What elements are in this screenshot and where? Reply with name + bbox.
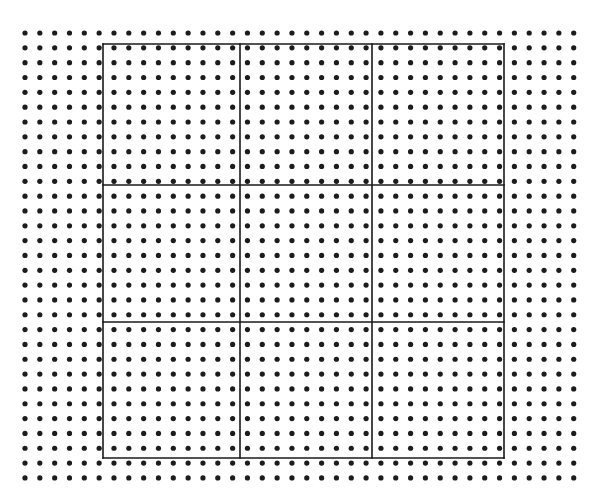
lattice-dot <box>82 60 87 65</box>
lattice-dot <box>275 475 280 480</box>
lattice-dot <box>37 401 42 406</box>
lattice-dot <box>200 105 205 110</box>
lattice-dot <box>215 357 220 362</box>
lattice-dot <box>141 401 146 406</box>
lattice-dot <box>363 312 368 317</box>
lattice-dot <box>260 357 265 362</box>
lattice-dot <box>571 386 576 391</box>
lattice-dot <box>527 208 532 213</box>
lattice-dot <box>541 194 546 199</box>
lattice-dot <box>289 431 294 436</box>
lattice-dot <box>111 75 116 80</box>
lattice-dot <box>171 268 176 273</box>
lattice-dot <box>349 371 354 376</box>
lattice-dot <box>497 446 502 451</box>
lattice-dot <box>22 90 27 95</box>
lattice-dot <box>97 45 102 50</box>
lattice-dot <box>512 208 517 213</box>
lattice-dot <box>156 371 161 376</box>
lattice-dot <box>334 460 339 465</box>
lattice-dot <box>363 238 368 243</box>
lattice-dot <box>67 401 72 406</box>
lattice-dot <box>156 475 161 480</box>
lattice-dot <box>245 431 250 436</box>
lattice-dot <box>378 30 383 35</box>
lattice-dot <box>512 90 517 95</box>
lattice-dot <box>275 75 280 80</box>
lattice-dot <box>67 475 72 480</box>
lattice-dot <box>52 327 57 332</box>
lattice-dot <box>289 194 294 199</box>
lattice-dot <box>111 164 116 169</box>
lattice-dot <box>497 357 502 362</box>
lattice-dot <box>186 75 191 80</box>
lattice-dot <box>438 386 443 391</box>
lattice-dot <box>378 208 383 213</box>
lattice-dot <box>37 431 42 436</box>
lattice-dot <box>289 297 294 302</box>
lattice-dot <box>467 401 472 406</box>
lattice-dot <box>186 386 191 391</box>
lattice-dot <box>200 401 205 406</box>
lattice-dot <box>378 386 383 391</box>
lattice-dot <box>126 416 131 421</box>
lattice-dot <box>512 45 517 50</box>
lattice-dot <box>111 312 116 317</box>
lattice-dot <box>275 283 280 288</box>
lattice-dot <box>408 297 413 302</box>
lattice-dot <box>245 401 250 406</box>
lattice-dot <box>527 30 532 35</box>
lattice-dot <box>349 386 354 391</box>
lattice-dot <box>289 268 294 273</box>
lattice-dot <box>97 253 102 258</box>
lattice-dot <box>186 253 191 258</box>
lattice-dot <box>37 60 42 65</box>
lattice-dot <box>497 297 502 302</box>
lattice-dot <box>541 312 546 317</box>
lattice-dot <box>67 238 72 243</box>
lattice-dot <box>378 371 383 376</box>
lattice-dot <box>245 164 250 169</box>
lattice-dot <box>349 90 354 95</box>
lattice-dot <box>393 179 398 184</box>
lattice-dot <box>171 357 176 362</box>
lattice-dot <box>126 401 131 406</box>
lattice-dot <box>82 238 87 243</box>
lattice-dot <box>363 60 368 65</box>
lattice-dot <box>200 134 205 139</box>
lattice-dot <box>156 105 161 110</box>
lattice-dot <box>423 268 428 273</box>
lattice-dot <box>171 208 176 213</box>
lattice-dot <box>200 283 205 288</box>
lattice-dot <box>111 357 116 362</box>
lattice-dot <box>171 105 176 110</box>
lattice-dot <box>408 134 413 139</box>
lattice-dot <box>408 238 413 243</box>
lattice-dot <box>482 431 487 436</box>
lattice-dot <box>497 134 502 139</box>
lattice-dot <box>319 297 324 302</box>
lattice-dot <box>156 416 161 421</box>
lattice-dot <box>275 357 280 362</box>
lattice-dot <box>304 401 309 406</box>
lattice-dot <box>230 475 235 480</box>
lattice-dot <box>438 401 443 406</box>
lattice-dot <box>245 105 250 110</box>
lattice-dot <box>215 416 220 421</box>
lattice-dot <box>186 401 191 406</box>
lattice-dot <box>571 431 576 436</box>
lattice-dot <box>512 312 517 317</box>
lattice-dot <box>408 208 413 213</box>
lattice-dot <box>260 268 265 273</box>
lattice-dot <box>304 371 309 376</box>
lattice-dot <box>186 312 191 317</box>
lattice-dot <box>363 134 368 139</box>
lattice-dot <box>378 105 383 110</box>
lattice-dot <box>82 446 87 451</box>
lattice-dot <box>171 475 176 480</box>
lattice-dot <box>408 45 413 50</box>
lattice-dot <box>275 60 280 65</box>
lattice-dot <box>334 134 339 139</box>
lattice-dot <box>82 312 87 317</box>
lattice-dot <box>111 223 116 228</box>
